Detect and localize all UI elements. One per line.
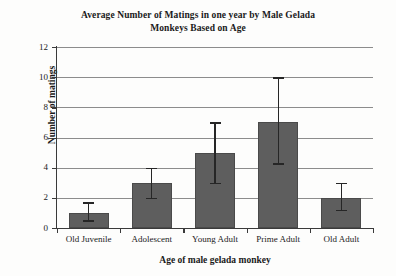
x-axis-tick-mark bbox=[120, 228, 121, 233]
error-bar-cap-upper bbox=[336, 183, 347, 184]
error-bar-cap-upper bbox=[83, 202, 94, 203]
error-bar-cap-lower bbox=[146, 198, 157, 199]
chart-figure: Average Number of Matings in one year by… bbox=[0, 0, 396, 276]
x-axis-tick-mark bbox=[310, 228, 311, 233]
x-axis-line bbox=[56, 228, 374, 229]
y-axis-tick-label: 0 bbox=[44, 222, 49, 235]
x-axis-label-adolescent: Adolescent bbox=[132, 234, 173, 244]
y-axis-tick-label: 12 bbox=[39, 41, 48, 54]
error-bar-cap-lower bbox=[273, 163, 284, 164]
error-bar-stem bbox=[214, 122, 215, 182]
x-axis-label-prime-adult: Prime Adult bbox=[256, 234, 300, 244]
y-axis-tick-label: 6 bbox=[44, 131, 49, 144]
error-bar-stem bbox=[151, 168, 152, 198]
y-axis-tick: 4 bbox=[52, 168, 57, 169]
chart-title-line-1: Average Number of Matings in one year by… bbox=[40, 9, 356, 22]
error-bar-stem bbox=[88, 202, 89, 220]
x-axis-tick-mark bbox=[57, 228, 58, 233]
y-axis-tick-mark bbox=[52, 198, 57, 199]
chart-title-line-2: Monkeys Based on Age bbox=[40, 22, 356, 35]
y-axis-tick-label: 2 bbox=[44, 191, 49, 204]
x-axis-label-young-adult: Young Adult bbox=[192, 234, 238, 244]
y-axis-tick-mark bbox=[52, 168, 57, 169]
y-axis-tick: 8 bbox=[52, 107, 57, 108]
error-bar-cap-lower bbox=[336, 210, 347, 211]
x-axis-tick-mark bbox=[247, 228, 248, 233]
y-axis-tick-mark bbox=[52, 138, 57, 139]
error-bar-cap-upper bbox=[273, 77, 284, 78]
y-axis-tick-mark bbox=[52, 77, 57, 78]
x-axis-label-old-adult: Old Adult bbox=[324, 234, 360, 244]
chart-title: Average Number of Matings in one year by… bbox=[40, 9, 356, 35]
y-axis-tick: 10 bbox=[52, 77, 57, 78]
error-bar-cap-upper bbox=[146, 168, 157, 169]
gridline bbox=[57, 77, 373, 78]
gridline bbox=[57, 47, 373, 48]
error-bar-cap-lower bbox=[83, 220, 94, 221]
x-axis-tick-mark bbox=[373, 228, 374, 233]
y-axis-tick-mark bbox=[52, 107, 57, 108]
y-axis-tick-label: 8 bbox=[44, 101, 49, 114]
gridline bbox=[57, 107, 373, 108]
plot-area bbox=[57, 47, 373, 228]
error-bar-cap-lower bbox=[210, 183, 221, 184]
error-bar-stem bbox=[341, 183, 342, 210]
y-axis-tick: 6 bbox=[52, 138, 57, 139]
x-axis-tick-mark bbox=[183, 228, 184, 233]
x-axis-label-old-juvenile: Old Juvenile bbox=[66, 234, 112, 244]
error-bar-cap-upper bbox=[210, 122, 221, 123]
x-axis-title: Age of male gelada monkey bbox=[57, 255, 373, 265]
y-axis-tick-label: 4 bbox=[44, 161, 49, 174]
y-axis-tick: 12 bbox=[52, 47, 57, 48]
y-axis-tick-label: 10 bbox=[39, 71, 48, 84]
error-bar-stem bbox=[278, 77, 279, 163]
y-axis-tick: 2 bbox=[52, 198, 57, 199]
y-axis-tick-mark bbox=[52, 47, 57, 48]
